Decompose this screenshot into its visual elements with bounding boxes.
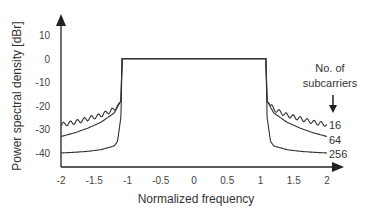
x-tick-label: -1.5 — [86, 175, 104, 186]
axes — [56, 14, 344, 172]
x-tick-label: -2 — [57, 175, 66, 186]
label-64: 64 — [329, 134, 341, 146]
y-tick-labels: 100-10-20-30-40 — [36, 30, 51, 159]
x-tick-labels: -2-1.5-1-0.500.511.52 — [57, 175, 331, 186]
x-tick-label: 1 — [258, 175, 264, 186]
y-tick-label: 0 — [44, 54, 50, 65]
x-tick-label: 2 — [324, 175, 330, 186]
label-256: 256 — [329, 148, 347, 160]
x-tick-label: 0 — [191, 175, 197, 186]
x-tick-label: -1 — [123, 175, 132, 186]
x-axis-arrow-icon — [332, 162, 344, 172]
y-tick-label: -20 — [36, 101, 51, 112]
curve-256-subcarriers — [61, 59, 327, 153]
x-tick-label: 1.5 — [287, 175, 301, 186]
y-axis-arrow-icon — [56, 14, 66, 26]
psd-chart: 100-10-20-30-40 -2-1.5-1-0.500.511.52 No… — [0, 0, 375, 222]
psd-curves — [61, 59, 327, 153]
x-axis-label: Normalized frequency — [138, 192, 255, 206]
legend-title-line1: No. of — [315, 62, 345, 74]
y-tick-label: 10 — [39, 30, 51, 41]
down-arrow-icon — [329, 95, 337, 113]
y-tick-label: -30 — [36, 124, 51, 135]
curve-64-subcarriers — [61, 59, 327, 137]
x-tick-label: -0.5 — [152, 175, 170, 186]
y-tick-label: -40 — [36, 148, 51, 159]
legend-title-line2: subcarriers — [303, 77, 358, 89]
y-axis-label: Power spectral density [dBr] — [10, 21, 24, 170]
curve-16-subcarriers — [61, 59, 327, 127]
x-tick-label: 0.5 — [220, 175, 234, 186]
y-tick-label: -10 — [36, 77, 51, 88]
label-16: 16 — [329, 119, 341, 131]
